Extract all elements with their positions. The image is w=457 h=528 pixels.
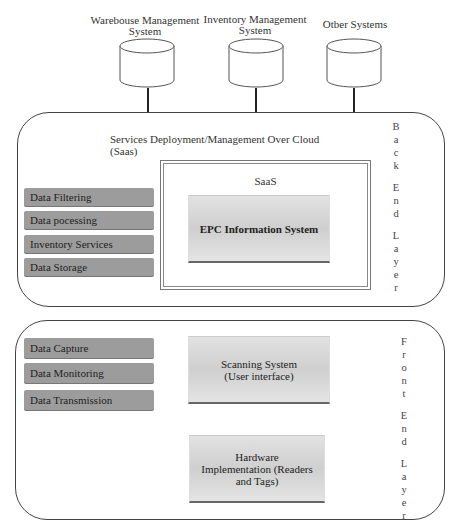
letter: r [398, 348, 410, 361]
label-line: System [195, 25, 315, 36]
scanning-system: Scanning System (User interface) [188, 336, 330, 404]
function-data-monitoring: Data Monitoring [24, 363, 154, 383]
title-line: (Saas) [110, 145, 319, 157]
letter: o [398, 361, 410, 374]
front-end-layer-label: F r o n t E n d L a y e r [398, 335, 410, 522]
letter: E [390, 181, 402, 194]
label-line: System [80, 26, 210, 37]
letter: t [398, 387, 410, 400]
letter: e [398, 496, 410, 509]
letter: n [390, 194, 402, 207]
service-inventory-services: Inventory Services [24, 235, 154, 253]
letter: a [398, 470, 410, 483]
service-data-processing: Data pocessing [24, 211, 154, 229]
letter: c [390, 146, 402, 159]
box-line: Implementation (Readers [201, 463, 313, 475]
letter: B [390, 120, 402, 133]
external-system-label-inventory: Inventory Management System [195, 14, 315, 36]
service-data-filtering: Data Filtering [24, 188, 154, 206]
hardware-implementation: Hardware Implementation (Readers and Tag… [189, 435, 325, 503]
connector-line [147, 88, 149, 113]
title-line: Services Deployment/Management Over Clou… [110, 133, 319, 145]
function-data-transmission: Data Transmission [24, 390, 154, 410]
back-end-title: Services Deployment/Management Over Clou… [110, 133, 319, 157]
letter: n [398, 374, 410, 387]
letter: d [398, 435, 410, 448]
database-cylinder-icon [119, 38, 175, 88]
letter: a [390, 242, 402, 255]
service-data-storage: Data Storage [24, 258, 154, 276]
saas-title: SaaS [160, 175, 371, 187]
back-end-layer-label: B a c k E n d L a y e r [390, 120, 402, 294]
box-line: (User interface) [224, 370, 293, 382]
label-line: Otber Systems [315, 19, 395, 30]
epc-information-system: EPC Information System [188, 195, 330, 263]
letter: F [398, 335, 410, 348]
letter: y [390, 255, 402, 268]
box-line: and Tags) [236, 475, 279, 487]
letter: r [390, 281, 402, 294]
database-cylinder-icon [228, 38, 284, 88]
connector-line [353, 88, 355, 113]
letter: E [398, 409, 410, 422]
letter: y [398, 483, 410, 496]
letter: L [398, 457, 410, 470]
external-system-label-warehouse: Warebouse Management System [80, 15, 210, 37]
letter: n [398, 422, 410, 435]
function-data-capture: Data Capture [24, 338, 154, 358]
letter: a [390, 133, 402, 146]
database-cylinder-icon [326, 38, 382, 88]
box-line: Scanning System [221, 358, 297, 370]
letter: e [390, 268, 402, 281]
letter: k [390, 159, 402, 172]
connector-line [255, 88, 257, 113]
external-system-label-other: Otber Systems [315, 19, 395, 30]
letter: L [390, 229, 402, 242]
box-line: Hardware [235, 451, 278, 463]
letter: d [390, 207, 402, 220]
letter: r [398, 509, 410, 522]
